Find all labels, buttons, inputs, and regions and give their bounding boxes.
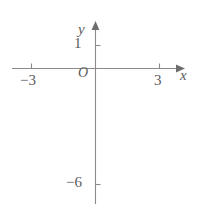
x-tick-label-neg3: −3 — [20, 73, 36, 88]
axes-graphic — [0, 0, 197, 204]
coordinate-plane-figure: y x O 1 −6 −3 3 — [0, 0, 197, 204]
origin-label: O — [78, 66, 88, 80]
x-axis-label: x — [180, 68, 187, 83]
y-tick-label-neg6: −6 — [66, 175, 82, 190]
y-tick-label-1: 1 — [74, 36, 82, 51]
y-axis-arrowhead — [92, 21, 100, 30]
x-tick-label-3: 3 — [154, 73, 162, 88]
